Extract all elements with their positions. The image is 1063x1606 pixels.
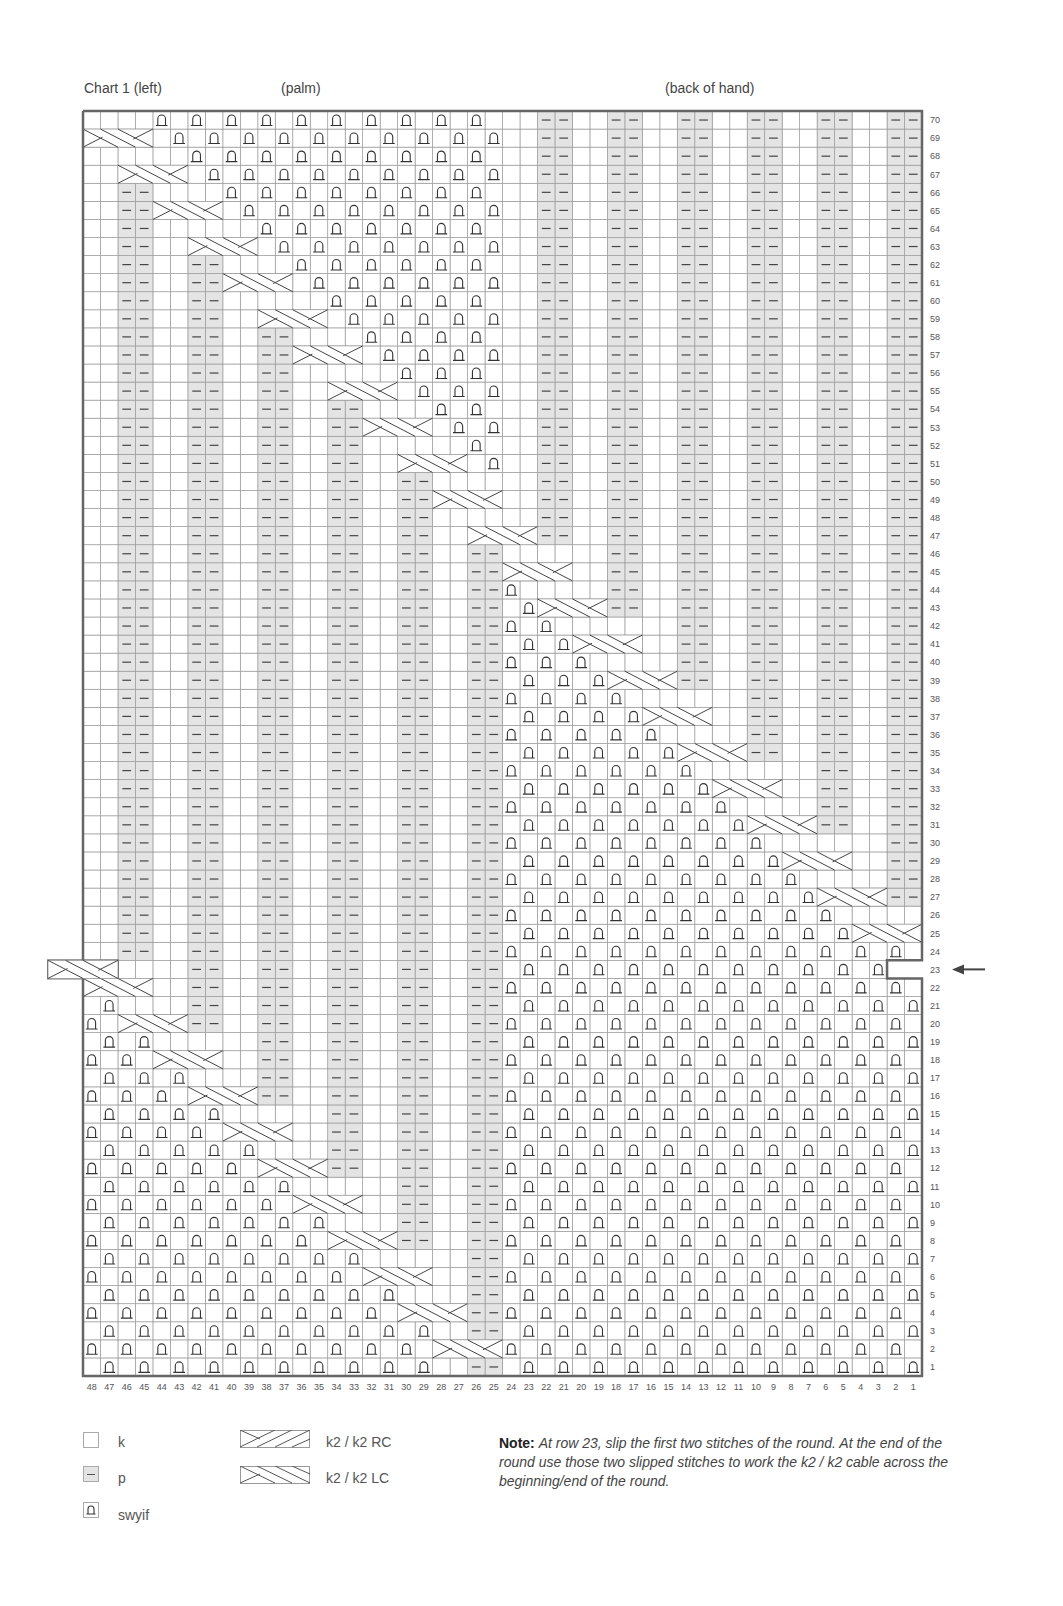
svg-text:44: 44: [930, 585, 940, 595]
svg-text:12: 12: [716, 1382, 726, 1392]
svg-text:42: 42: [192, 1382, 202, 1392]
svg-text:40: 40: [227, 1382, 237, 1392]
svg-text:15: 15: [664, 1382, 674, 1392]
svg-text:26: 26: [471, 1382, 481, 1392]
svg-text:59: 59: [930, 314, 940, 324]
svg-text:39: 39: [244, 1382, 254, 1392]
svg-text:35: 35: [314, 1382, 324, 1392]
svg-text:6: 6: [823, 1382, 828, 1392]
svg-text:4: 4: [930, 1308, 935, 1318]
svg-text:1: 1: [911, 1382, 916, 1392]
svg-text:28: 28: [436, 1382, 446, 1392]
svg-text:26: 26: [930, 910, 940, 920]
svg-text:47: 47: [930, 531, 940, 541]
svg-text:13: 13: [930, 1145, 940, 1155]
svg-text:20: 20: [576, 1382, 586, 1392]
svg-text:53: 53: [930, 423, 940, 433]
cable-rc-legend-icon: [240, 1430, 310, 1448]
svg-text:6: 6: [930, 1272, 935, 1282]
svg-text:36: 36: [930, 730, 940, 740]
svg-text:39: 39: [930, 676, 940, 686]
svg-text:36: 36: [296, 1382, 306, 1392]
svg-text:70: 70: [930, 115, 940, 125]
svg-text:13: 13: [699, 1382, 709, 1392]
svg-text:46: 46: [122, 1382, 132, 1392]
svg-text:41: 41: [209, 1382, 219, 1392]
svg-text:3: 3: [930, 1326, 935, 1336]
svg-text:57: 57: [930, 350, 940, 360]
svg-text:31: 31: [384, 1382, 394, 1392]
chart-cells: [48, 111, 922, 1376]
svg-text:41: 41: [930, 639, 940, 649]
svg-text:25: 25: [930, 929, 940, 939]
svg-text:16: 16: [930, 1091, 940, 1101]
svg-text:35: 35: [930, 748, 940, 758]
column-numbers: 4847464544434241403938373635343332313029…: [87, 1382, 916, 1392]
svg-text:1: 1: [930, 1362, 935, 1372]
svg-text:47: 47: [104, 1382, 114, 1392]
svg-text:54: 54: [930, 404, 940, 414]
svg-text:7: 7: [806, 1382, 811, 1392]
svg-text:58: 58: [930, 332, 940, 342]
svg-text:51: 51: [930, 459, 940, 469]
svg-text:48: 48: [930, 513, 940, 523]
svg-text:15: 15: [930, 1109, 940, 1119]
svg-text:43: 43: [174, 1382, 184, 1392]
svg-text:37: 37: [279, 1382, 289, 1392]
svg-text:38: 38: [930, 694, 940, 704]
svg-text:3: 3: [876, 1382, 881, 1392]
knitting-chart-grid: 1234567891011121314151617181920212223242…: [0, 0, 1063, 1420]
svg-text:8: 8: [788, 1382, 793, 1392]
svg-text:17: 17: [629, 1382, 639, 1392]
svg-text:50: 50: [930, 477, 940, 487]
svg-text:62: 62: [930, 260, 940, 270]
svg-text:45: 45: [930, 567, 940, 577]
note-text: At row 23, slip the first two stitches o…: [499, 1435, 948, 1489]
svg-text:19: 19: [930, 1037, 940, 1047]
svg-text:29: 29: [419, 1382, 429, 1392]
svg-text:32: 32: [366, 1382, 376, 1392]
svg-text:45: 45: [139, 1382, 149, 1392]
legend-label-p: p: [118, 1470, 126, 1486]
row-23-arrow-icon: [952, 964, 985, 974]
svg-text:42: 42: [930, 621, 940, 631]
svg-text:69: 69: [930, 133, 940, 143]
svg-text:5: 5: [841, 1382, 846, 1392]
svg-text:9: 9: [930, 1218, 935, 1228]
svg-text:19: 19: [594, 1382, 604, 1392]
svg-text:68: 68: [930, 151, 940, 161]
svg-text:18: 18: [611, 1382, 621, 1392]
svg-text:65: 65: [930, 206, 940, 216]
svg-text:9: 9: [771, 1382, 776, 1392]
svg-text:33: 33: [930, 784, 940, 794]
svg-text:12: 12: [930, 1163, 940, 1173]
svg-text:44: 44: [157, 1382, 167, 1392]
pattern-note: Note: At row 23, slip the first two stit…: [499, 1434, 949, 1491]
svg-text:67: 67: [930, 170, 940, 180]
svg-text:27: 27: [930, 892, 940, 902]
svg-text:10: 10: [751, 1382, 761, 1392]
svg-text:29: 29: [930, 856, 940, 866]
svg-text:22: 22: [930, 983, 940, 993]
svg-text:52: 52: [930, 441, 940, 451]
svg-text:23: 23: [524, 1382, 534, 1392]
svg-text:21: 21: [559, 1382, 569, 1392]
legend-label-swyif: swyif: [118, 1507, 149, 1523]
svg-text:49: 49: [930, 495, 940, 505]
svg-text:24: 24: [930, 947, 940, 957]
svg-text:63: 63: [930, 242, 940, 252]
note-heading: Note:: [499, 1435, 535, 1451]
svg-text:2: 2: [930, 1344, 935, 1354]
svg-text:11: 11: [734, 1382, 743, 1392]
svg-text:61: 61: [930, 278, 940, 288]
knit-legend-icon: [83, 1432, 99, 1448]
svg-text:7: 7: [930, 1254, 935, 1264]
svg-text:55: 55: [930, 386, 940, 396]
svg-text:25: 25: [489, 1382, 499, 1392]
row-numbers: 1234567891011121314151617181920212223242…: [930, 115, 940, 1372]
svg-text:5: 5: [930, 1290, 935, 1300]
svg-text:33: 33: [349, 1382, 359, 1392]
svg-text:27: 27: [454, 1382, 464, 1392]
svg-text:46: 46: [930, 549, 940, 559]
svg-text:16: 16: [646, 1382, 656, 1392]
